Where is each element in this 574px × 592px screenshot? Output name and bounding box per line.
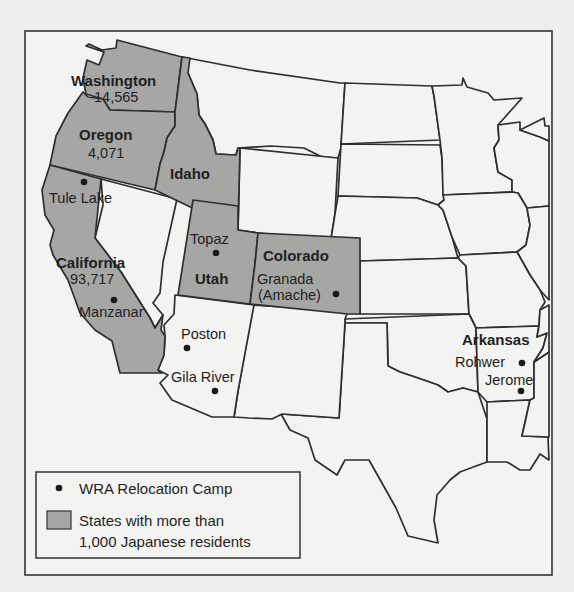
label-utah: Utah <box>195 270 228 287</box>
relocation-camps-map: Washington 14,565 Oregon 4,071 Idaho Cal… <box>0 0 574 592</box>
label-camp-gila-river: Gila River <box>171 369 235 385</box>
label-colorado: Colorado <box>263 247 329 264</box>
label-california: California <box>56 254 126 271</box>
label-camp-poston: Poston <box>181 326 226 342</box>
camp-dot-poston <box>184 345 191 352</box>
label-camp-jerome: Jerome <box>485 372 533 388</box>
camp-dot-rohwer <box>519 360 526 367</box>
legend-camp-label: WRA Relocation Camp <box>79 480 232 497</box>
label-camp-manzanar: Manzanar <box>79 304 144 320</box>
state-wyoming <box>238 148 338 239</box>
legend-shaded-label-line1: States with more than <box>79 512 224 529</box>
legend-camp-dot-icon <box>56 485 63 492</box>
label-washington: Washington <box>71 72 156 89</box>
label-california-count: 93,717 <box>70 271 114 287</box>
map-svg: Washington 14,565 Oregon 4,071 Idaho Cal… <box>0 0 574 592</box>
camp-dot-tule-lake <box>81 179 88 186</box>
label-camp-tule-lake: Tule Lake <box>49 190 112 206</box>
camp-dot-jerome <box>518 388 525 395</box>
legend-shaded-swatch-icon <box>47 511 71 529</box>
camp-dot-granada <box>333 291 340 298</box>
label-oregon-count: 4,071 <box>88 145 124 161</box>
label-washington-count: 14,565 <box>94 89 138 105</box>
legend-shaded-label-line2: 1,000 Japanese residents <box>79 533 251 550</box>
label-camp-rohwer: Rohwer <box>455 354 505 370</box>
camp-dot-manzanar <box>111 297 118 304</box>
legend: WRA Relocation Camp States with more tha… <box>36 472 300 558</box>
label-idaho: Idaho <box>170 165 210 182</box>
label-oregon: Oregon <box>79 126 132 143</box>
label-camp-topaz: Topaz <box>190 231 229 247</box>
camp-dot-gila-river <box>212 388 219 395</box>
label-arkansas: Arkansas <box>462 331 530 348</box>
label-camp-granada: Granada <box>257 271 314 287</box>
state-north-dakota <box>341 83 440 144</box>
camp-dot-topaz <box>213 250 220 257</box>
label-camp-granada-alt: (Amache) <box>258 287 321 303</box>
state-kansas <box>360 258 469 314</box>
